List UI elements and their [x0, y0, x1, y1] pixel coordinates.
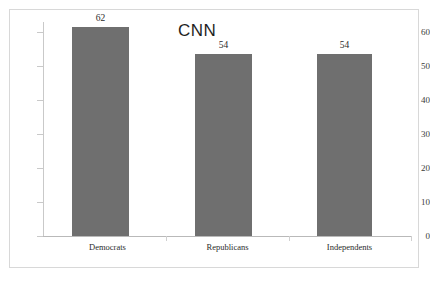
x-axis-line: [43, 236, 412, 237]
x-axis-label-democrats: Democrats: [55, 243, 160, 252]
bar-democrats[interactable]: [72, 27, 129, 236]
x-axis-label-republicans: Republicans: [175, 243, 280, 252]
chart-title: CNN: [178, 22, 216, 39]
plot-area: [43, 22, 411, 236]
bar-republicans[interactable]: [195, 54, 252, 236]
x-axis-label-independents: Independents: [297, 243, 402, 252]
x-axis-separator: [166, 236, 167, 241]
chart-container: 60 50 40 30 20 10 0 62 54 54 CNN Democra…: [0, 0, 430, 283]
bar-value-independents: 54: [317, 41, 372, 51]
x-axis-separator: [289, 236, 290, 241]
bar-value-republicans: 54: [195, 41, 252, 51]
bar-independents[interactable]: [317, 54, 372, 236]
bar-value-democrats: 62: [72, 14, 129, 24]
x-axis-separator: [411, 236, 412, 241]
